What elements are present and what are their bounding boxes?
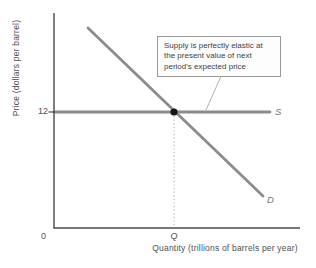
callout-leader-line — [206, 74, 222, 110]
supply-curve-label: S — [275, 107, 281, 117]
callout-box: Supply is perfectly elastic at the prese… — [157, 36, 281, 77]
callout-text-line: period's expected price — [164, 62, 276, 72]
x-tick-label-q: Q — [170, 232, 177, 241]
demand-curve-label: D — [267, 195, 274, 205]
x-axis-title: Quantity (trillions of barrels per year) — [152, 244, 297, 253]
supply-demand-figure: Price (dollars per barrel) Quantity (tri… — [0, 0, 316, 268]
callout-text-line: Supply is perfectly elastic at — [164, 41, 276, 51]
y-axis-title: Price (dollars per barrel) — [12, 20, 21, 116]
y-tick-label-12: 12 — [30, 107, 48, 116]
equilibrium-point — [170, 108, 177, 115]
callout-text-line: the present value of next — [164, 51, 276, 61]
origin-label: 0 — [41, 232, 46, 241]
